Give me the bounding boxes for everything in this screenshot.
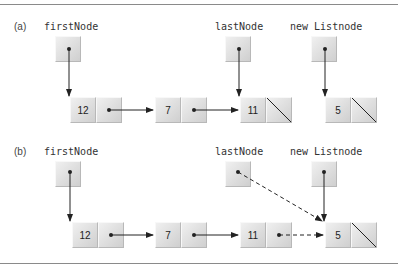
arrows-layer xyxy=(0,0,398,265)
linked-list-diagram: (a) firstNode lastNode new Listnode 12 7… xyxy=(0,0,398,265)
